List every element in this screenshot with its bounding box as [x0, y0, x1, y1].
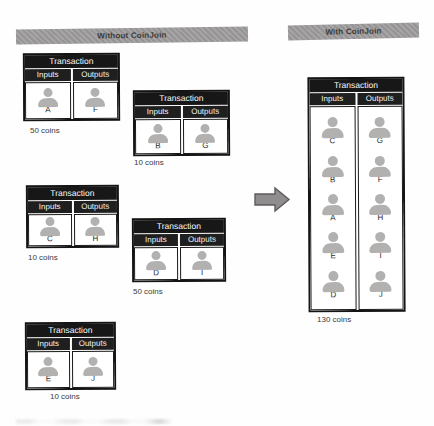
input-cell: D	[134, 247, 178, 280]
person-icon	[322, 271, 344, 292]
participant-letter: H	[92, 235, 98, 243]
transaction-title: Transaction	[25, 55, 118, 68]
coins-label: 10 coins	[134, 158, 164, 167]
participant-letter: C	[47, 235, 53, 243]
coinjoin-transaction-box: Transaction Inputs Outputs C B A E D	[307, 77, 405, 313]
transaction-columns: Inputs Outputs C B A E D	[309, 93, 403, 310]
coinjoin-outputs-cell: G F H I J	[357, 106, 404, 310]
participant: H	[369, 194, 391, 222]
output-cell: H	[73, 214, 117, 246]
participant: D	[322, 271, 344, 299]
inputs-header: Inputs	[309, 93, 355, 105]
input-cell: A	[25, 82, 71, 119]
coinjoin-diagram: { "banners": { "without": "Without CoinJ…	[0, 0, 434, 426]
person-icon	[38, 88, 58, 107]
transaction-columns: Inputs Outputs E J	[27, 338, 114, 388]
transaction-columns: Inputs Outputs B G	[135, 106, 228, 154]
scan-artifact	[16, 419, 181, 424]
coins-label: 10 coins	[28, 253, 58, 262]
inputs-header: Inputs	[134, 234, 178, 246]
outputs-header: Outputs	[72, 69, 118, 81]
right-arrow-icon	[254, 186, 291, 213]
output-cell: J	[71, 351, 114, 388]
participant: C	[321, 117, 343, 145]
outputs-header: Outputs	[357, 93, 403, 105]
participant-letter: G	[202, 141, 208, 149]
participant-letter: C	[330, 137, 336, 145]
person-icon	[321, 117, 343, 138]
person-icon	[83, 356, 103, 375]
person-icon	[85, 217, 105, 236]
transaction-box-3: Transaction Inputs Outputs C H	[26, 185, 119, 248]
participant-letter: F	[93, 105, 98, 113]
person-icon	[195, 123, 215, 142]
participant: I	[369, 232, 391, 260]
output-cell: I	[180, 247, 224, 280]
participant-letter: F	[378, 176, 383, 184]
outputs-header: Outputs	[71, 338, 114, 350]
participant-letter: E	[330, 252, 335, 260]
participant-letter: I	[201, 268, 203, 276]
coins-label: 50 coins	[30, 126, 60, 135]
participant: F	[369, 155, 391, 183]
person-icon	[369, 155, 391, 176]
person-icon	[370, 270, 392, 291]
with-coinjoin-banner: With CoinJoin	[288, 23, 419, 41]
person-icon	[148, 124, 168, 143]
participant-letter: H	[377, 214, 383, 222]
participant: A	[322, 194, 344, 222]
participant-letter: E	[46, 375, 51, 383]
person-icon	[38, 357, 58, 376]
outputs-header: Outputs	[182, 106, 228, 118]
transaction-title: Transaction	[135, 92, 228, 105]
coins-label: 10 coins	[50, 392, 80, 401]
participant-letter: G	[377, 137, 383, 145]
inputs-header: Inputs	[27, 338, 70, 350]
transaction-box-5: Transaction Inputs Outputs E J	[25, 322, 116, 390]
input-cell: B	[135, 119, 181, 154]
person-icon	[40, 217, 60, 236]
person-icon	[146, 251, 166, 270]
participant: J	[370, 270, 392, 298]
output-cell: F	[72, 82, 118, 119]
person-icon	[322, 232, 344, 253]
coins-label: 130 coins	[317, 315, 351, 324]
output-cell: G	[182, 119, 228, 154]
participant-letter: D	[330, 291, 336, 299]
inputs-header: Inputs	[135, 106, 181, 118]
transaction-box-2: Transaction Inputs Outputs B G	[133, 90, 230, 157]
transaction-columns: Inputs Outputs A F	[25, 69, 118, 119]
person-icon	[85, 87, 105, 106]
transaction-box-4: Transaction Inputs Outputs D I	[132, 218, 226, 282]
input-cell: C	[28, 214, 72, 246]
transaction-title: Transaction	[27, 324, 114, 337]
inputs-header: Inputs	[28, 201, 72, 213]
person-icon	[369, 117, 391, 138]
transaction-columns: Inputs Outputs D I	[134, 234, 224, 280]
participant-letter: B	[155, 142, 160, 150]
participant-letter: A	[45, 106, 50, 114]
participant-letter: I	[379, 252, 381, 260]
person-icon	[369, 232, 391, 253]
person-icon	[369, 194, 391, 215]
participant: B	[322, 156, 344, 184]
person-icon	[192, 250, 212, 269]
coinjoin-inputs-cell: C B A E D	[310, 106, 357, 310]
transaction-title: Transaction	[134, 220, 224, 233]
without-coinjoin-banner: Without CoinJoin	[16, 26, 248, 44]
participant-letter: A	[330, 214, 335, 222]
person-icon	[322, 194, 344, 215]
person-icon	[322, 156, 344, 177]
transaction-title: Transaction	[309, 79, 402, 92]
transaction-columns: Inputs Outputs C H	[28, 201, 117, 246]
participant-letter: J	[379, 291, 383, 299]
input-cell: E	[27, 351, 70, 388]
coins-label: 50 coins	[133, 287, 163, 296]
participant-letter: D	[153, 269, 159, 277]
participant: G	[369, 117, 391, 145]
participant-letter: B	[330, 176, 335, 184]
outputs-header: Outputs	[73, 201, 117, 213]
inputs-header: Inputs	[25, 69, 71, 81]
participant-letter: J	[91, 374, 95, 382]
transaction-box-1: Transaction Inputs Outputs A F	[23, 53, 120, 122]
